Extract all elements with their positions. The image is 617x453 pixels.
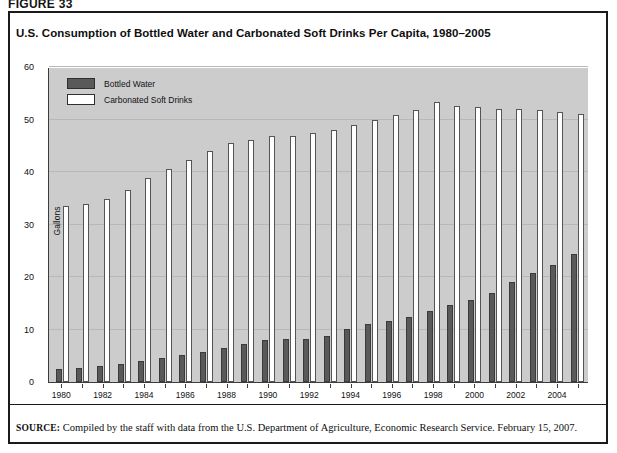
legend-swatch-bottled-water [67,78,95,89]
bar-group [485,68,506,382]
bar-carbonated-soft-drinks [496,109,502,382]
x-axis-tick-mark [433,384,434,388]
bar-carbonated-soft-drinks [516,109,522,382]
bar-group [237,68,258,382]
bar-carbonated-soft-drinks [269,136,275,382]
x-axis-tick-mark [474,384,475,388]
plot-area: Bottled Water Carbonated Soft Drinks 010… [48,68,588,383]
figure-container: FIGURE 33 U.S. Consumption of Bottled Wa… [0,0,617,453]
x-axis-tick-mark [392,384,393,388]
bar-bottled-water [76,368,82,382]
bar-group [155,68,176,382]
bar-bottled-water [138,361,144,382]
bar-group [444,68,465,382]
bar-bottled-water [406,317,412,382]
bar-bottled-water [56,369,62,382]
bar-carbonated-soft-drinks [104,199,110,382]
x-axis-tick-label: 1992 [300,390,319,400]
bar-bottled-water [365,324,371,382]
bar-carbonated-soft-drinks [207,151,213,382]
x-axis-tick-mark [227,384,228,388]
bar-carbonated-soft-drinks [228,143,234,382]
x-axis-tick-label: 1994 [341,390,360,400]
bar-carbonated-soft-drinks [331,130,337,382]
bar-bottled-water [447,305,453,382]
bar-carbonated-soft-drinks [125,190,131,382]
x-axis-tick-mark [289,384,290,388]
source-prefix: SOURCE: [16,423,60,433]
bar-bottled-water [221,348,227,382]
bar-group [423,68,444,382]
x-axis-tick-mark [82,384,83,388]
bar-bottled-water [118,364,124,382]
x-axis-tick-mark [165,384,166,388]
bar-bottled-water [262,340,268,382]
bar-bottled-water [530,273,536,382]
x-axis-tick-label: 1998 [424,390,443,400]
x-axis-tick: 1996 [382,384,403,404]
gridline [49,66,588,67]
x-axis-tick [443,384,464,404]
x-axis-tick-label: 1986 [176,390,195,400]
x-axis-tick [278,384,299,404]
x-axis-tick-label: 2002 [506,390,525,400]
x-axis-tick [320,384,341,404]
bar-group [402,68,423,382]
x-axis-tick-mark [557,384,558,388]
bar-carbonated-soft-drinks [83,204,89,383]
bar-carbonated-soft-drinks [186,160,192,382]
bar-group [361,68,382,382]
bar-carbonated-soft-drinks [537,110,543,382]
x-axis-tick-mark [123,384,124,388]
x-axis-tick: 2004 [547,384,568,404]
bar-bottled-water [283,339,289,382]
bar-carbonated-soft-drinks [434,102,440,382]
x-axis-tick-mark [206,384,207,388]
bar-bottled-water [344,329,350,382]
x-axis-tick [113,384,134,404]
x-axis-tick: 1992 [299,384,320,404]
chart-legend: Bottled Water Carbonated Soft Drinks [67,78,192,110]
source-divider [10,404,606,405]
bar-group [176,68,197,382]
x-axis-tick: 1986 [175,384,196,404]
x-axis-tick: 2000 [464,384,485,404]
bar-bottled-water [489,293,495,382]
bar-series-group [49,68,588,382]
bar-group [526,68,547,382]
figure-label: FIGURE 33 [8,0,73,9]
x-axis-tick: 1994 [340,384,361,404]
bar-group [341,68,362,382]
plot-background: Bottled Water Carbonated Soft Drinks [48,68,588,383]
x-axis-tick-mark [268,384,269,388]
x-axis-tick [567,384,588,404]
bar-group [567,68,588,382]
x-axis-tick-mark [309,384,310,388]
y-axis-label: Gallons [52,181,62,261]
bar-group [464,68,485,382]
x-axis-tick [485,384,506,404]
x-axis-tick-mark [412,384,413,388]
bar-bottled-water [509,282,515,382]
bar-carbonated-soft-drinks [413,110,419,382]
bar-group [279,68,300,382]
bar-bottled-water [200,352,206,382]
bar-carbonated-soft-drinks [393,115,399,382]
bar-carbonated-soft-drinks [454,106,460,382]
legend-item-carbonated-soft-drinks: Carbonated Soft Drinks [67,94,192,105]
bar-bottled-water [179,355,185,382]
x-axis-tick [361,384,382,404]
bar-carbonated-soft-drinks [578,114,584,382]
x-axis-tick-mark [536,384,537,388]
x-axis-tick-mark [351,384,352,388]
x-axis-tick-mark [516,384,517,388]
x-axis-tick [72,384,93,404]
legend-label-carbonated-soft-drinks: Carbonated Soft Drinks [104,95,192,105]
x-axis-tick [196,384,217,404]
x-axis-tick-label: 2000 [465,390,484,400]
x-axis-tick-label: 1990 [258,390,277,400]
bar-bottled-water [159,358,165,382]
x-axis-tick-mark [371,384,372,388]
bar-carbonated-soft-drinks [248,140,254,382]
x-axis-tick-mark [103,384,104,388]
